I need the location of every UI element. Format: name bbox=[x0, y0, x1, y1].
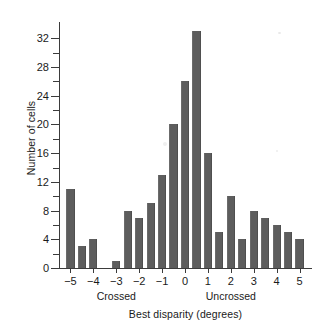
y-axis-minor-tick bbox=[53, 196, 59, 197]
x-axis-tick bbox=[254, 268, 255, 273]
histogram-bar bbox=[238, 239, 246, 268]
axis-annotation: Uncrossed bbox=[206, 290, 256, 302]
histogram-bar bbox=[284, 232, 292, 268]
scan-artifact bbox=[163, 142, 167, 146]
x-axis-tick bbox=[277, 268, 278, 273]
y-axis-tick-label: 32 bbox=[37, 32, 49, 44]
histogram-bar bbox=[124, 211, 132, 268]
y-axis-tick bbox=[51, 153, 59, 154]
x-axis-tick bbox=[208, 268, 209, 273]
y-axis-tick-label: 28 bbox=[37, 61, 49, 73]
histogram-bar bbox=[181, 81, 189, 268]
y-axis-minor-tick bbox=[53, 81, 59, 82]
y-axis-tick bbox=[51, 96, 59, 97]
histogram-bar bbox=[204, 153, 212, 268]
y-axis-tick-label: 8 bbox=[43, 205, 49, 217]
histogram-bar bbox=[147, 203, 155, 268]
x-axis-tick-label: 2 bbox=[228, 275, 234, 287]
y-axis-tick-label: 16 bbox=[37, 147, 49, 159]
histogram-bar bbox=[135, 218, 143, 268]
y-axis-tick bbox=[51, 124, 59, 125]
y-axis-tick-label: 24 bbox=[37, 90, 49, 102]
x-axis-tick bbox=[231, 268, 232, 273]
x-axis-tick bbox=[93, 268, 94, 273]
histogram-figure: Number of cells 048121620242832−5−4−3−2−… bbox=[0, 0, 317, 328]
histogram-bar bbox=[169, 124, 177, 268]
histogram-bar bbox=[78, 246, 86, 268]
histogram-bar bbox=[295, 239, 303, 268]
y-axis-tick-label: 20 bbox=[37, 118, 49, 130]
y-axis-minor-tick bbox=[53, 225, 59, 226]
histogram-bar bbox=[250, 211, 258, 268]
x-axis-tick-label: −3 bbox=[110, 275, 123, 287]
x-axis-tick-label: −2 bbox=[133, 275, 146, 287]
x-axis-tick-label: 5 bbox=[296, 275, 302, 287]
histogram-bar bbox=[215, 232, 223, 268]
scan-artifact bbox=[278, 32, 281, 34]
y-axis-tick bbox=[51, 211, 59, 212]
y-axis-tick-label: 4 bbox=[43, 233, 49, 245]
histogram-bar bbox=[261, 218, 269, 268]
histogram-bar bbox=[89, 239, 97, 268]
x-axis-tick-label: 1 bbox=[205, 275, 211, 287]
x-axis-tick bbox=[300, 268, 301, 273]
x-axis-tick bbox=[139, 268, 140, 273]
x-axis-tick-label: −5 bbox=[64, 275, 77, 287]
y-axis-minor-tick bbox=[53, 168, 59, 169]
histogram-bar bbox=[227, 196, 235, 268]
x-axis-tick-label: 0 bbox=[182, 275, 188, 287]
scan-artifact bbox=[276, 150, 278, 152]
histogram-bar bbox=[112, 261, 120, 268]
y-axis-tick bbox=[51, 268, 59, 269]
x-axis-tick bbox=[70, 268, 71, 273]
y-axis-minor-tick bbox=[53, 139, 59, 140]
y-axis-minor-tick bbox=[53, 110, 59, 111]
x-axis-tick-label: 3 bbox=[251, 275, 257, 287]
histogram-bar bbox=[66, 189, 74, 268]
x-axis-label: Best disparity (degrees) bbox=[59, 308, 312, 320]
y-axis-minor-tick bbox=[53, 254, 59, 255]
x-axis-tick bbox=[162, 268, 163, 273]
histogram-bar bbox=[192, 31, 200, 268]
y-axis-minor-tick bbox=[53, 53, 59, 54]
y-axis-tick bbox=[51, 182, 59, 183]
x-axis-tick-label: 4 bbox=[274, 275, 280, 287]
y-axis-tick bbox=[51, 67, 59, 68]
histogram-bar bbox=[158, 175, 166, 268]
x-axis-tick-label: −1 bbox=[156, 275, 169, 287]
y-axis-tick bbox=[51, 239, 59, 240]
x-axis-tick bbox=[185, 268, 186, 273]
plot-area: 048121620242832−5−4−3−2−1012345 bbox=[59, 24, 311, 268]
y-axis-tick-label: 12 bbox=[37, 176, 49, 188]
axis-annotations: CrossedUncrossed bbox=[59, 290, 312, 304]
histogram-bar bbox=[273, 225, 281, 268]
y-axis-tick bbox=[51, 38, 59, 39]
y-axis-tick-label: 0 bbox=[43, 262, 49, 274]
x-axis-tick bbox=[116, 268, 117, 273]
axis-annotation: Crossed bbox=[97, 290, 136, 302]
x-axis-tick-label: −4 bbox=[87, 275, 100, 287]
